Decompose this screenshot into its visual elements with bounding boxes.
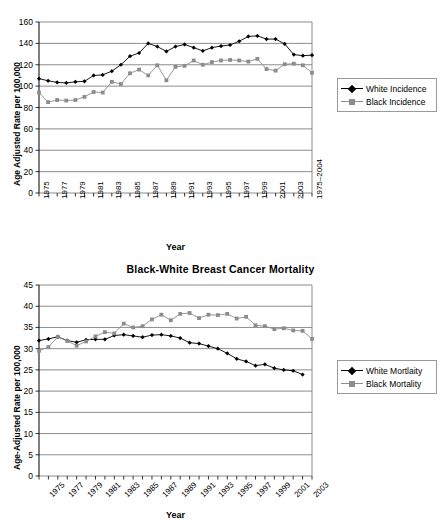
square-marker-icon (341, 379, 363, 389)
mortality-legend: White Mortlaity Black Mortality (337, 360, 437, 394)
y-axis-tick-label: 35 (11, 323, 33, 331)
x-axis-title: Year (39, 242, 312, 252)
square-marker-icon (341, 97, 363, 107)
y-axis-tick-label: 0 (11, 189, 33, 197)
y-axis-tick-label: 45 (11, 281, 33, 289)
x-axis-tick-label: 1991 (188, 181, 196, 199)
incidence-plot-area: 020406080100120140160Age Adjusted Rate p… (0, 14, 441, 262)
x-axis-tick-label: 2001 (279, 181, 287, 199)
y-axis-tick-label: 140 (11, 39, 33, 47)
incidence-chart-title (0, 0, 441, 14)
x-axis-tick-label: 1985 (134, 181, 142, 199)
y-axis-tick-label: 0 (11, 472, 33, 480)
legend-label: Black Incidence (366, 97, 426, 107)
x-axis-tick-label: 1977 (61, 181, 69, 199)
y-axis-tick-label: 40 (11, 302, 33, 310)
incidence-chart: 020406080100120140160Age Adjusted Rate p… (0, 0, 441, 262)
x-axis-title: Year (39, 510, 312, 520)
mortality-chart-title: Black-White Breast Cancer Mortality (0, 262, 441, 276)
x-axis-tick-label: 1999 (261, 181, 269, 199)
x-axis-tick-label: 2003 (297, 181, 305, 199)
legend-label: White Mortlaity (366, 366, 422, 376)
x-axis-tick-label: 1993 (206, 181, 214, 199)
diamond-marker-icon (341, 366, 363, 376)
x-axis-tick-label: 1989 (170, 181, 178, 199)
x-axis-tick-label: 1981 (97, 181, 105, 199)
legend-item-black-incidence: Black Incidence (341, 95, 432, 108)
x-axis-tick-label: 1997 (243, 181, 251, 199)
incidence-plot-svg (0, 14, 441, 262)
legend-item-white-mortality: White Mortlaity (341, 364, 432, 377)
mortality-chart: Black-White Breast Cancer Mortality 0510… (0, 262, 441, 523)
y-axis-tick-label: 160 (11, 18, 33, 26)
x-axis-tick-label: 1983 (115, 181, 123, 199)
incidence-legend: White Incidence Black Incidence (337, 78, 437, 112)
x-axis-tick-label: 1979 (79, 181, 87, 199)
y-axis-title: Age-Adjusted Rate per 100,000 (12, 345, 22, 470)
legend-item-black-mortality: Black Mortality (341, 377, 432, 390)
legend-label: White Incidence (366, 84, 426, 94)
legend-label: Black Mortality (366, 379, 421, 389)
x-axis-tick-label: 1975 (43, 181, 51, 199)
x-axis-tick-label: 1975–2004 (316, 159, 324, 199)
y-axis-title: Age Adjusted Rate per 100,000 (12, 62, 22, 186)
legend-item-white-incidence: White Incidence (341, 82, 432, 95)
x-axis-tick-label: 1995 (225, 181, 233, 199)
x-axis-tick-label: 1987 (152, 181, 160, 199)
mortality-plot-area: 051015202530354045Age-Adjusted Rate per … (0, 276, 441, 523)
diamond-marker-icon (341, 84, 363, 94)
